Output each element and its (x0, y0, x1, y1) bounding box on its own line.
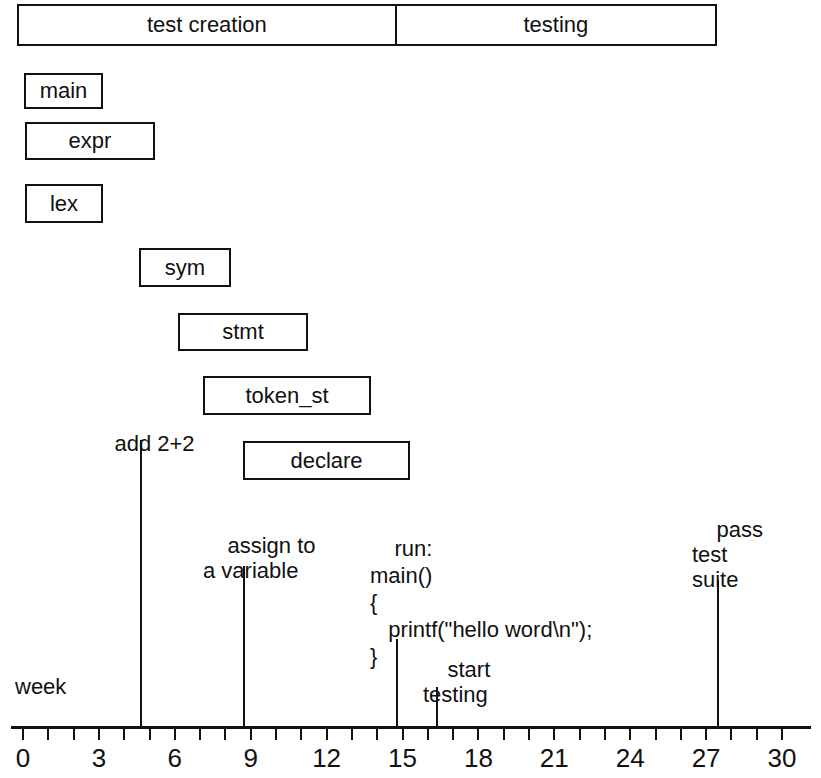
axis-tick-label: 12 (312, 745, 341, 771)
axis-tick-label: 15 (388, 745, 417, 771)
milestone-label-assign-to-a-variable: assign to a variable (203, 508, 316, 608)
milestone-label-add-2-plus-2: add 2+2 (90, 406, 195, 481)
axis-tick-label: 0 (16, 745, 30, 771)
axis-tick (781, 726, 783, 740)
axis-tick-label: 21 (540, 745, 569, 771)
axis-tick (427, 726, 429, 740)
milestone-label-start-testing: start testing (423, 632, 490, 732)
axis-title-week: week (15, 676, 66, 698)
task-bar-stmt: stmt (178, 313, 308, 351)
task-bar-label: expr (69, 130, 112, 152)
axis-tick (705, 726, 707, 740)
milestone-label-text: add 2+2 (114, 431, 194, 456)
milestone-line-run-main-code (396, 639, 398, 727)
task-bar-label: sym (165, 257, 205, 279)
axis-tick (402, 726, 404, 740)
axis-tick (300, 726, 302, 740)
phase-segment-testing: testing (395, 6, 715, 44)
axis-tick (655, 726, 657, 740)
axis-tick (553, 726, 555, 740)
milestone-label-text: pass test suite (692, 517, 763, 592)
axis-tick (275, 726, 277, 740)
axis-tick (351, 726, 353, 740)
axis-tick (579, 726, 581, 740)
task-bar-lex: lex (25, 184, 103, 223)
milestone-label-text: start testing (423, 657, 490, 707)
axis-tick (98, 726, 100, 740)
phase-segment-test-creation: test creation (19, 6, 395, 44)
axis-tick (503, 726, 505, 740)
axis-tick-label: 9 (243, 745, 257, 771)
axis-tick (47, 726, 49, 740)
milestone-line-add-2-plus-2 (140, 440, 142, 727)
task-bar-label: declare (290, 450, 362, 472)
axis-tick (224, 726, 226, 740)
milestone-label-pass-test-suite: pass test suite (692, 492, 763, 617)
task-bar-main: main (24, 73, 103, 109)
axis-tick (604, 726, 606, 740)
axis-tick-label: 30 (768, 745, 797, 771)
milestone-line-start-testing (436, 687, 438, 727)
axis-tick (73, 726, 75, 740)
phase-segment-label: testing (524, 14, 589, 36)
axis-tick (174, 726, 176, 740)
axis-tick (477, 726, 479, 740)
task-bar-label: lex (50, 193, 78, 215)
axis-tick (149, 726, 151, 740)
axis-tick-label: 3 (92, 745, 106, 771)
axis-tick (528, 726, 530, 740)
task-bar-label: main (40, 80, 88, 102)
axis-tick (629, 726, 631, 740)
task-bar-expr: expr (25, 122, 155, 160)
axis-tick (730, 726, 732, 740)
axis-tick-label: 6 (168, 745, 182, 771)
milestone-label-text: assign to a variable (203, 533, 316, 583)
axis-title-text: week (15, 674, 66, 699)
axis-tick (756, 726, 758, 740)
phase-bar: test creation testing (17, 4, 717, 46)
task-bar-label: stmt (222, 321, 264, 343)
axis-tick-label: 27 (692, 745, 721, 771)
axis-tick (326, 726, 328, 740)
task-bar-label: token_st (245, 385, 328, 407)
axis-tick (376, 726, 378, 740)
task-bar-sym: sym (139, 248, 231, 287)
axis-tick (680, 726, 682, 740)
task-bar-declare: declare (243, 441, 410, 480)
time-axis-line (11, 726, 811, 729)
axis-tick-label: 18 (464, 745, 493, 771)
axis-tick (452, 726, 454, 740)
gantt-chart-figure: test creation testing main expr lex sym … (0, 0, 821, 778)
axis-tick (123, 726, 125, 740)
task-bar-token-st: token_st (203, 376, 371, 415)
axis-tick-label: 24 (616, 745, 645, 771)
milestone-line-assign-to-a-variable (243, 566, 245, 727)
phase-segment-label: test creation (147, 14, 267, 36)
axis-tick (22, 726, 24, 740)
axis-tick (199, 726, 201, 740)
milestone-line-pass-test-suite (717, 580, 719, 727)
axis-tick (250, 726, 252, 740)
